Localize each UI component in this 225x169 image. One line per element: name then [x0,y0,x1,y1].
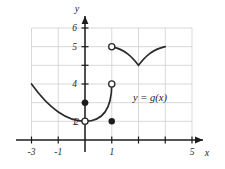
xtick-label-5: 5 [190,147,195,157]
ytick-label-2: 2 [74,117,79,127]
open-circle-1-5 [109,44,115,50]
xtick-label-minus1: -1 [54,147,62,157]
graph-figure: -3 -1 1 5 1 2 4 5 6 x y y = g(x) [0,0,225,169]
xtick-label-1: 1 [109,147,114,157]
x-axis-label: x [204,147,210,158]
filled-dot-minus1-3 [82,100,88,106]
open-circle-1-4 [109,81,115,87]
ytick-label-5: 5 [72,42,77,52]
coordinate-plane-svg: -3 -1 1 5 1 2 4 5 6 x y y = g(x) [0,0,225,169]
curve-equation-label: y = g(x) [132,92,167,104]
x-axis [16,137,203,144]
ytick-label-6: 6 [72,23,77,33]
xtick-label-minus3: -3 [28,147,36,157]
y-axis-label: y [74,3,80,14]
filled-dot-1-2 [109,118,115,124]
ytick-label-4: 4 [72,79,77,89]
open-circle-minus1-2 [82,118,88,124]
